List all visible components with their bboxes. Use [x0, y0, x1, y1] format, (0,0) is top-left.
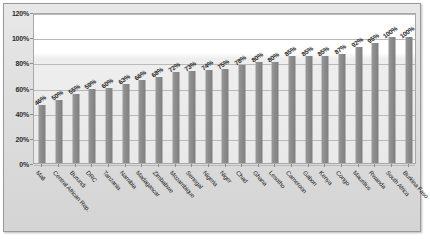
x-axis-tick-mark [141, 164, 142, 167]
bar-slot: 59% [84, 14, 101, 163]
bar-slot: 100% [400, 14, 417, 163]
bar-slot: 85% [300, 14, 317, 163]
bar-slot: 80% [250, 14, 267, 163]
x-axis-tick-mark [225, 164, 226, 167]
x-axis-tick-mark [191, 164, 192, 167]
bar[interactable] [189, 71, 196, 163]
chart-container: 0%20%40%60%80%100%120% 46%50%55%59%60%63… [3, 3, 421, 232]
x-axis-tick-mark [75, 164, 76, 167]
bar-series: 46%50%55%59%60%63%66%68%72%73%74%75%78%8… [34, 14, 415, 163]
x-axis-tick-mark [291, 164, 292, 167]
bar-slot: 75% [217, 14, 234, 163]
y-axis-tick-label: 100% [12, 35, 29, 42]
bar[interactable] [389, 37, 396, 163]
x-axis-tick-mark [241, 164, 242, 167]
bar[interactable] [322, 56, 329, 163]
bar[interactable] [239, 65, 246, 163]
bar-slot: 60% [101, 14, 118, 163]
bar-slot: 80% [267, 14, 284, 163]
x-axis-tick-mark [374, 164, 375, 167]
x-axis-category-label: Mali [35, 169, 47, 182]
x-axis-category-label: Ghana [252, 169, 269, 187]
x-axis-tick-mark [274, 164, 275, 167]
y-axis-tick-label: 20% [16, 135, 29, 142]
x-axis: MaliCentral African Rep.BurundiDRCTanzan… [33, 164, 416, 233]
bar-slot: 74% [201, 14, 218, 163]
y-axis: 0%20%40%60%80%100%120% [4, 4, 33, 166]
bar[interactable] [355, 47, 362, 163]
x-axis-category-label: Kenya [318, 169, 334, 186]
x-axis-tick-mark [324, 164, 325, 167]
bar[interactable] [122, 84, 129, 163]
bar-slot: 78% [234, 14, 251, 163]
y-axis-tick-label: 80% [16, 60, 29, 67]
bar[interactable] [405, 37, 412, 163]
bar-slot: 46% [34, 14, 51, 163]
x-axis-tick-mark [125, 164, 126, 167]
bar[interactable] [172, 72, 179, 163]
bar[interactable] [339, 54, 346, 163]
bar-slot: 73% [184, 14, 201, 163]
x-axis-tick-mark [58, 164, 59, 167]
bar-slot: 72% [167, 14, 184, 163]
bar[interactable] [289, 56, 296, 163]
bar-slot: 55% [67, 14, 84, 163]
y-axis-tick-label: 40% [16, 110, 29, 117]
x-axis-tick-mark [91, 164, 92, 167]
x-axis-category-label: Chad [235, 169, 250, 184]
bar[interactable] [272, 62, 279, 163]
x-axis-category-label: DRC [85, 169, 99, 183]
bar-slot: 100% [384, 14, 401, 163]
x-axis-tick-mark [258, 164, 259, 167]
bar-slot: 95% [367, 14, 384, 163]
bar-slot: 85% [317, 14, 334, 163]
bar-slot: 50% [51, 14, 68, 163]
y-axis-tick-label: 120% [12, 10, 29, 17]
bar[interactable] [372, 43, 379, 163]
x-axis-tick-mark [208, 164, 209, 167]
bar[interactable] [255, 62, 262, 163]
x-axis-tick-mark [41, 164, 42, 167]
bar[interactable] [222, 69, 229, 163]
bar[interactable] [39, 105, 46, 163]
x-axis-tick-mark [175, 164, 176, 167]
x-axis-tick-mark [408, 164, 409, 167]
x-axis-category-label: Niger [218, 169, 233, 184]
bar-slot: 92% [350, 14, 367, 163]
bar[interactable] [139, 80, 146, 163]
x-axis-tick-mark [308, 164, 309, 167]
bar[interactable] [305, 56, 312, 163]
x-axis-category-label: Congo [335, 169, 352, 187]
x-axis-tick-mark [108, 164, 109, 167]
bar-slot: 87% [334, 14, 351, 163]
bar[interactable] [89, 89, 96, 163]
bar[interactable] [155, 77, 162, 163]
bar[interactable] [55, 100, 62, 163]
x-axis-tick-mark [391, 164, 392, 167]
bar[interactable] [205, 70, 212, 163]
x-axis-tick-mark [158, 164, 159, 167]
bar-slot: 63% [117, 14, 134, 163]
y-axis-tick-label: 0% [19, 161, 29, 168]
x-axis-tick-mark [358, 164, 359, 167]
bar-slot: 68% [151, 14, 168, 163]
bar-slot: 85% [284, 14, 301, 163]
bar[interactable] [105, 88, 112, 164]
bar-slot: 66% [134, 14, 151, 163]
x-axis-tick-mark [341, 164, 342, 167]
plot-area: 46%50%55%59%60%63%66%68%72%73%74%75%78%8… [33, 13, 416, 164]
bar[interactable] [72, 94, 79, 163]
y-axis-tick-label: 60% [16, 85, 29, 92]
